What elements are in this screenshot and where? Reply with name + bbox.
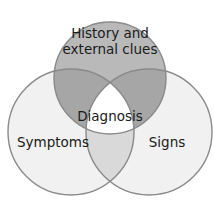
label-signs: Signs — [149, 134, 185, 150]
venn-diagram: History and external clues Symptoms Sign… — [0, 0, 214, 201]
label-history-line1: History and — [71, 25, 149, 41]
label-symptoms: Symptoms — [17, 134, 89, 150]
label-diagnosis: Diagnosis — [77, 108, 143, 124]
label-history-line2: external clues — [63, 41, 158, 57]
venn-diagram-canvas: History and external clues Symptoms Sign… — [0, 0, 214, 201]
